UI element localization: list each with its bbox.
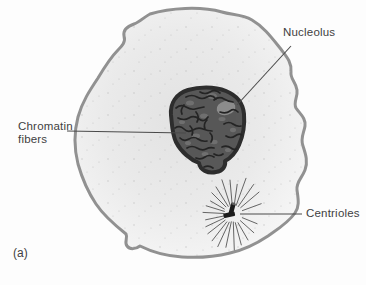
cell-diagram-figure: Nucleolus Chromatin fibers Centrioles (a… [0, 0, 366, 285]
nucleolus-label: Nucleolus [283, 26, 335, 39]
centrioles-label: Centrioles [306, 207, 360, 220]
panel-label: (a) [13, 246, 28, 260]
chromatin-fibers-label: Chromatin fibers [18, 120, 82, 146]
